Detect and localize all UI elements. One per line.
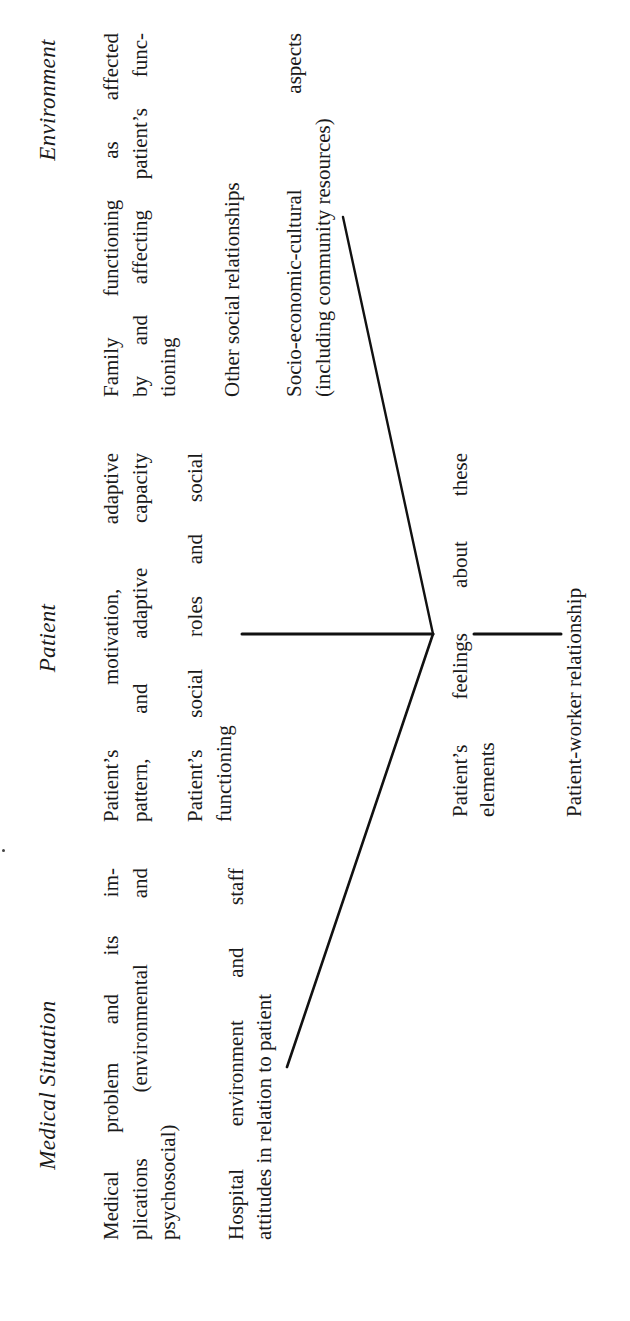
- connector-lines: [0, 0, 630, 1321]
- line-medical-to-feelings: [287, 634, 433, 1067]
- page: Medical Situation Patient Environment Me…: [0, 0, 630, 1321]
- rotated-diagram-canvas: Medical Situation Patient Environment Me…: [0, 0, 630, 1321]
- print-speck: [2, 849, 5, 852]
- line-environment-to-feelings: [343, 217, 433, 634]
